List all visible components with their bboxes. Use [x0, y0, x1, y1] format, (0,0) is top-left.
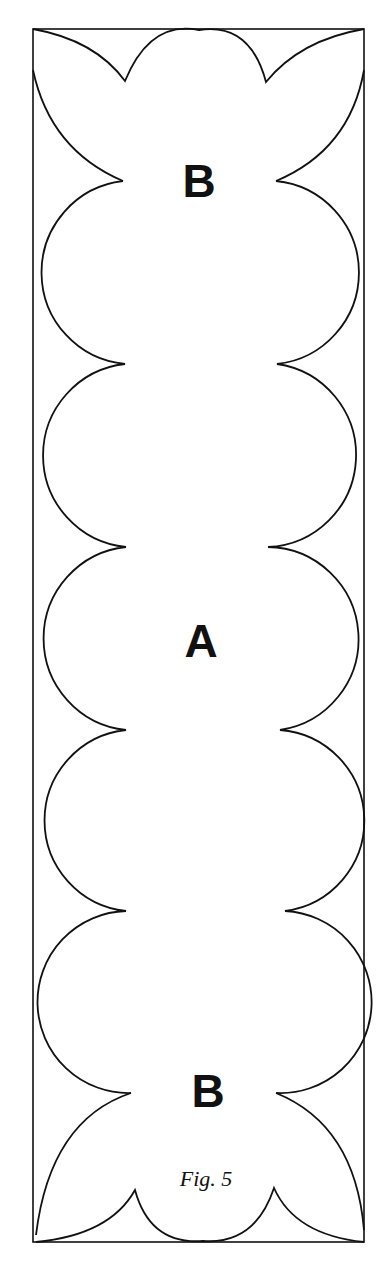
top-left-petal: [33, 70, 123, 181]
bottom-scallop: [36, 1188, 364, 1242]
top-right-petal: [276, 70, 364, 181]
right-scallops: [268, 181, 372, 1093]
left-scallops: [37, 181, 131, 1093]
top-scallop: [33, 29, 364, 82]
region-label-bottom-b: B: [191, 1068, 224, 1114]
bottom-right-petal: [276, 1093, 364, 1230]
figure-caption: Fig. 5: [180, 1166, 233, 1192]
region-label-a: A: [184, 618, 217, 664]
region-label-top-b: B: [182, 158, 215, 204]
